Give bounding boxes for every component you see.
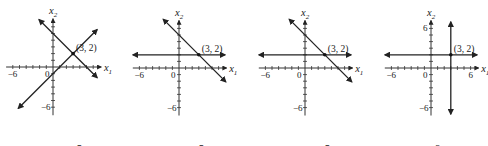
intersection-point	[197, 53, 201, 57]
x-axis-label: x1	[480, 63, 488, 77]
tick-label-y-neg6: −6	[167, 103, 177, 113]
equations-panel-2: x₁ + x₂ = 5 −2x₂ = −4	[157, 121, 208, 146]
origin-label: 0	[423, 70, 428, 80]
y-axis-label: x2	[426, 7, 436, 21]
intersection-label: (3, 2)	[202, 44, 223, 55]
origin-label: 0	[297, 70, 302, 80]
equation-1: x₁ + x₂ = 5	[283, 143, 330, 146]
y-axis-label: x2	[48, 5, 58, 19]
equation-1: x₁ + x₂ = 5	[35, 143, 82, 146]
y-axis-label: x2	[174, 7, 184, 21]
tick-label-x-neg6: −6	[134, 70, 144, 80]
tick-label-y-6: 6	[423, 23, 428, 33]
graph-panel-2: x1x2−60−6(3, 2)	[133, 7, 238, 116]
graph-panel-4: x1x2−60−666(3, 2)	[385, 7, 488, 116]
tick-label-y-neg6: −6	[293, 103, 303, 113]
intersection-label: (3, 2)	[454, 44, 475, 55]
x-axis-label: x1	[354, 63, 363, 77]
intersection-label: (3, 2)	[76, 43, 97, 54]
equation-1: x₁ + x₂ = 5	[157, 143, 208, 146]
intersection-point	[323, 53, 327, 57]
origin-label: 0	[171, 70, 176, 80]
graph-panel-3: x1x2−60−6(3, 2)	[259, 7, 364, 116]
tick-label-x-neg6: −6	[386, 70, 396, 80]
tick-label-x-neg6: −6	[8, 69, 18, 79]
tick-label-y-neg6: −6	[41, 102, 51, 112]
intersection-point	[71, 52, 75, 56]
y-axis-label: x2	[300, 7, 310, 21]
tick-label-x-6: 6	[469, 70, 474, 80]
equations-panel-3: x₁ + x₂ = 5 x₂ = 2	[283, 121, 330, 146]
intersection-label: (3, 2)	[328, 44, 349, 55]
x-axis-label: x1	[103, 62, 112, 76]
equation-1: x₁ = 3	[414, 143, 440, 146]
x-axis-label: x1	[228, 63, 237, 77]
intersection-point	[449, 53, 453, 57]
equations-panel-4: x₁ = 3 x₂ = 2	[414, 121, 440, 146]
tick-label-y-neg6: −6	[419, 103, 429, 113]
line-2	[18, 29, 97, 108]
equations-panel-1: x₁ + x₂ = 5 x₁ − x₂ = 1	[35, 121, 82, 146]
tick-label-x-neg6: −6	[260, 70, 270, 80]
graph-panel-1: x1x2−60−6(3, 2)	[6, 5, 112, 115]
